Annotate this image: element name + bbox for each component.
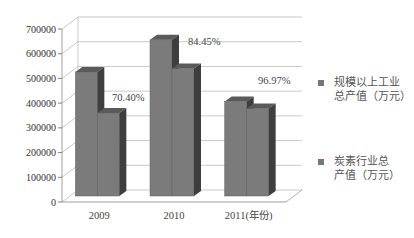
x-axis-labels: 200920102011(年份) bbox=[89, 209, 273, 222]
y-tick-label: 300000 bbox=[26, 122, 56, 133]
percentage-annotations: 70.40%84.45%96.97% bbox=[112, 36, 291, 103]
bars bbox=[75, 35, 275, 196]
bar bbox=[150, 40, 172, 196]
bar bbox=[172, 69, 194, 196]
y-tick-label: 200000 bbox=[26, 147, 56, 158]
y-tick-label: 700000 bbox=[26, 24, 56, 35]
y-axis-ticks: 0100000200000300000400000500000600000700… bbox=[26, 24, 56, 208]
y-tick-label: 400000 bbox=[26, 98, 56, 109]
x-tick-label: 2009 bbox=[89, 210, 110, 221]
percentage-label: 84.45% bbox=[188, 36, 221, 47]
y-tick-label: 600000 bbox=[26, 48, 56, 59]
bar bbox=[225, 102, 247, 196]
y-tick-label: 500000 bbox=[26, 73, 56, 84]
y-tick-label: 100000 bbox=[26, 172, 56, 183]
legend-swatch bbox=[318, 80, 324, 86]
bar bbox=[97, 113, 119, 196]
x-tick-label: 2010 bbox=[164, 210, 185, 221]
y-tick-label: 0 bbox=[51, 197, 56, 208]
legend-swatch bbox=[318, 159, 324, 165]
bar bbox=[75, 72, 97, 196]
x-tick-label: 2011(年份) bbox=[225, 209, 273, 222]
percentage-label: 70.40% bbox=[112, 92, 145, 103]
chart-canvas: 0100000200000300000400000500000600000700… bbox=[0, 0, 414, 238]
bar bbox=[247, 109, 269, 196]
percentage-label: 96.97% bbox=[258, 75, 291, 86]
